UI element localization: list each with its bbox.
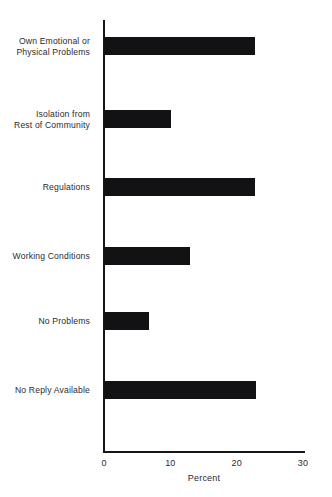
category-label-no-reply-available: No Reply Available xyxy=(0,385,90,396)
bar-working-conditions xyxy=(104,247,190,265)
x-tick-label-30: 30 xyxy=(283,458,323,468)
bar-no-problems xyxy=(104,312,149,330)
category-label-own-emotional-or-physical-problems: Own Emotional or Physical Problems xyxy=(0,36,90,57)
x-axis-line xyxy=(103,451,305,453)
bar-chart: Own Emotional or Physical Problems Isola… xyxy=(0,0,332,497)
category-label-working-conditions: Working Conditions xyxy=(0,251,90,262)
bar-own-emotional-or-physical-problems xyxy=(104,37,255,55)
category-label-regulations: Regulations xyxy=(0,182,90,193)
category-label-no-problems: No Problems xyxy=(0,316,90,327)
x-tick-label-10: 10 xyxy=(150,458,190,468)
x-tick-label-20: 20 xyxy=(217,458,257,468)
x-tick-label-0: 0 xyxy=(84,458,124,468)
bar-isolation-from-rest-of-community xyxy=(104,110,171,128)
bar-regulations xyxy=(104,178,255,196)
x-axis-title: Percent xyxy=(103,473,305,483)
category-label-isolation-from-rest-of-community: Isolation from Rest of Community xyxy=(0,109,90,130)
bar-no-reply-available xyxy=(104,381,256,399)
